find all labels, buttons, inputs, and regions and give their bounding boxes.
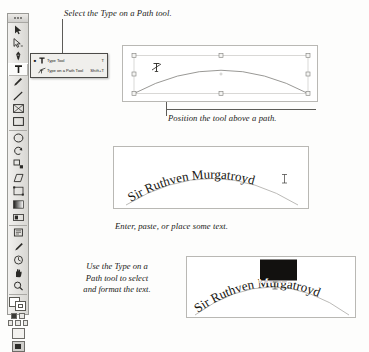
free-transform-tool-icon: [13, 186, 24, 196]
direct-selection-tool[interactable]: [8, 36, 28, 49]
free-transform-tool[interactable]: [8, 184, 28, 197]
type-on-path-cursor: [152, 64, 161, 72]
menu-item-type-on-path-tool-shortcut: Shift+T: [90, 68, 105, 73]
leader-line-horizontal: [166, 109, 316, 110]
text-insertion-cursor: [282, 175, 287, 184]
ellipse-tool[interactable]: [8, 132, 28, 145]
stroke-swatch[interactable]: [15, 301, 26, 311]
text-on-path-svg: Sir Ruthven Murgatroyd: [114, 147, 309, 209]
menu-item-type-tool-label: Type Tool: [46, 58, 101, 63]
line-tool-icon: [13, 91, 23, 101]
rectangle-tool-icon: [13, 117, 24, 126]
note-tool-icon: [13, 228, 24, 238]
type-on-path-tool-icon: [37, 67, 46, 74]
pencil-tool-icon: [13, 77, 23, 87]
rotate-tool[interactable]: [8, 145, 28, 158]
zoom-tool-icon: [13, 281, 24, 291]
text-on-path-panel: Sir Ruthven Murgatroyd: [113, 146, 309, 209]
scale-tool-icon: [13, 159, 24, 169]
formatting-affects-text-icon[interactable]: [19, 313, 25, 319]
pencil-tool[interactable]: [8, 76, 28, 89]
tools-panel[interactable]: [7, 13, 29, 315]
type-tool-icon: [37, 57, 46, 64]
apply-gradient-icon[interactable]: [15, 320, 20, 326]
type-tool[interactable]: [8, 63, 28, 76]
shear-tool-icon: [13, 173, 24, 183]
hand-tool-icon: [13, 268, 24, 278]
gradient-feather-tool[interactable]: [8, 211, 28, 224]
selection-tool[interactable]: [8, 23, 28, 36]
zoom-tool[interactable]: [8, 280, 28, 293]
leader-line-to-menu: [62, 19, 63, 55]
type-tool-icon: [14, 64, 23, 74]
shear-tool[interactable]: [8, 171, 28, 184]
menu-item-type-tool[interactable]: ■ Type Tool T: [31, 55, 107, 66]
rectangle-tool[interactable]: [8, 115, 28, 128]
note-tool[interactable]: [8, 227, 28, 240]
toolbar-divider-2: [9, 225, 27, 226]
menu-item-type-on-path-tool-label: Type on a Path Tool: [46, 68, 90, 73]
line-tool[interactable]: [8, 89, 28, 102]
measure-tool[interactable]: [8, 253, 28, 266]
gradient-feather-tool-icon: [13, 213, 24, 222]
caption-position-tool: Position the tool above a path.: [168, 113, 277, 123]
caption-format-line-2: Path tool to select: [58, 273, 176, 285]
formatted-text-svg: Sir Ruthven Murgatroyd Sir Ruthven Murga…: [187, 257, 356, 318]
normal-view-mode-button[interactable]: [12, 328, 25, 339]
caption-select-tool: Select the Type on a Path tool.: [64, 8, 172, 18]
caption-format-text: Use the Type on a Path tool to select an…: [58, 261, 176, 296]
type-tool-flyout-menu[interactable]: ■ Type Tool T Type on a Path Tool Shift+…: [30, 53, 108, 78]
path-text-content: Sir Ruthven Murgatroyd: [125, 166, 257, 204]
hand-tool[interactable]: [8, 266, 28, 279]
formatted-text-content: Sir Ruthven Murgatroyd: [191, 275, 323, 316]
gradient-tool[interactable]: [8, 197, 28, 210]
ellipse-tool-icon: [13, 133, 24, 143]
toolbar-divider-3: [9, 294, 27, 295]
scale-tool[interactable]: [8, 158, 28, 171]
tools-panel-grip[interactable]: [8, 14, 28, 23]
eyedropper-tool-icon: [13, 242, 24, 252]
menu-item-type-tool-shortcut: T: [101, 58, 105, 63]
path-illustration-svg: [123, 46, 318, 102]
caption-format-line-1: Use the Type on a: [58, 261, 176, 273]
toolbar-divider: [9, 130, 27, 131]
fill-stroke-swatches[interactable]: [9, 297, 27, 312]
rectangle-frame-tool[interactable]: [8, 102, 28, 115]
gradient-tool-icon: [13, 200, 24, 209]
eyedropper-tool[interactable]: [8, 240, 28, 253]
formatting-affects-container-icon[interactable]: [11, 313, 17, 319]
caption-enter-text: Enter, paste, or place some text.: [115, 221, 228, 231]
formatted-text-panel: Sir Ruthven Murgatroyd Sir Ruthven Murga…: [186, 256, 356, 318]
rectangle-frame-tool-icon: [13, 104, 24, 113]
path-illustration-panel: [122, 45, 318, 102]
apply-color-icon[interactable]: [8, 320, 13, 326]
formatting-affects-row[interactable]: [8, 313, 28, 319]
selection-tool-icon: [14, 25, 23, 35]
preview-view-mode-button[interactable]: [12, 341, 25, 352]
measure-tool-icon: [13, 255, 24, 265]
apply-none-icon[interactable]: [23, 320, 28, 326]
rotate-tool-icon: [13, 146, 24, 156]
menu-item-type-on-path-tool[interactable]: Type on a Path Tool Shift+T: [31, 66, 107, 77]
direct-selection-tool-icon: [13, 38, 23, 48]
pen-tool[interactable]: [8, 49, 28, 62]
caption-format-line-3: and format the text.: [58, 284, 176, 296]
pen-tool-icon: [14, 51, 23, 61]
apply-color-row[interactable]: [8, 320, 28, 326]
